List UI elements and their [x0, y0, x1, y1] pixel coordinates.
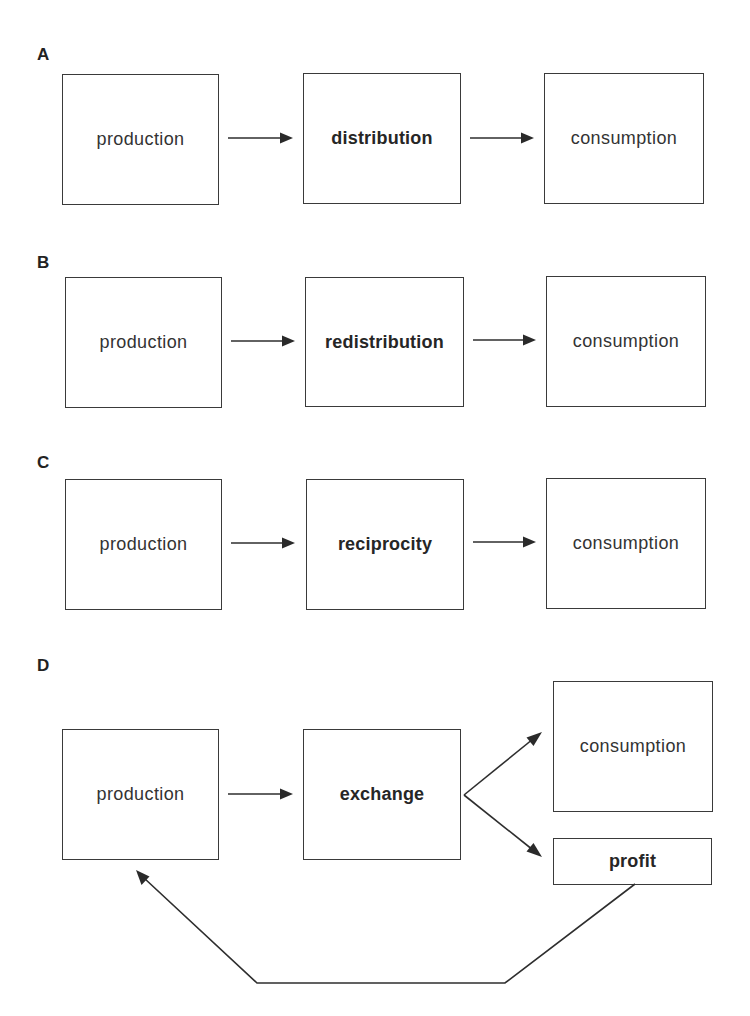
panel-a-consumption-box: consumption [544, 73, 704, 204]
panel-d-profit-text: profit [609, 851, 656, 872]
panel-b-redistribution-text: redistribution [325, 332, 444, 353]
arrow-b-redistribution-to-consumption [473, 335, 536, 346]
panel-a-consumption-text: consumption [571, 128, 677, 149]
panel-label-b: B [37, 254, 49, 271]
panel-a-distribution-box: distribution [303, 73, 461, 204]
panel-c-consumption-box: consumption [546, 478, 706, 609]
arrow-a-production-to-distribution [228, 133, 293, 144]
arrow-c-production-to-reciprocity [231, 538, 295, 549]
arrow-d-production-to-exchange [228, 789, 293, 800]
panel-d-production-text: production [96, 784, 184, 805]
panel-c-consumption-text: consumption [573, 533, 679, 554]
panel-c-reciprocity-box: reciprocity [306, 479, 464, 610]
panel-label-a: A [37, 46, 49, 63]
arrow-b-production-to-redistribution [231, 336, 295, 347]
panel-d-production-box: production [62, 729, 219, 860]
panel-b-production-box: production [65, 277, 222, 408]
panel-d-exchange-box: exchange [303, 729, 461, 860]
panel-c-production-box: production [65, 479, 222, 610]
panel-label-d: D [37, 657, 49, 674]
panel-d-consumption-text: consumption [580, 736, 686, 757]
panel-c-production-text: production [99, 534, 187, 555]
arrow-a-distribution-to-consumption [470, 133, 534, 144]
panel-d-profit-box: profit [553, 838, 712, 885]
panel-a-production-box: production [62, 74, 219, 205]
panel-a-distribution-text: distribution [331, 128, 432, 149]
panel-d-consumption-box: consumption [553, 681, 713, 812]
arrow-d-exchange-to-profit [464, 795, 542, 857]
panel-b-consumption-text: consumption [573, 331, 679, 352]
panel-d-exchange-text: exchange [340, 784, 425, 805]
panel-label-c: C [37, 454, 49, 471]
panel-b-consumption-box: consumption [546, 276, 706, 407]
arrow-c-reciprocity-to-consumption [473, 537, 536, 548]
arrow-d-profit-to-production-feedback [136, 870, 635, 983]
panel-c-reciprocity-text: reciprocity [338, 534, 432, 555]
panel-b-redistribution-box: redistribution [305, 277, 464, 407]
panel-b-production-text: production [99, 332, 187, 353]
panel-a-production-text: production [96, 129, 184, 150]
arrow-d-exchange-to-consumption [464, 732, 542, 795]
